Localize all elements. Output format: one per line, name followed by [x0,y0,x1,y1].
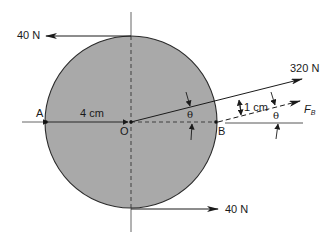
point-b-label: B [218,126,225,137]
point-a-label: A [36,108,43,119]
theta-center-label: θ [187,110,193,120]
offset-dimension-label: 1 cm [244,102,268,113]
fb-subscript: B [311,109,316,116]
theta-right-label: θ [273,111,279,121]
point-b [214,120,218,124]
offset-dim-right [271,92,275,105]
fb-force-label: FB [304,104,315,116]
offset-dim-down [240,104,241,115]
point-o-label: O [120,126,129,137]
disk-force-diagram [0,0,335,240]
fb-symbol: F [304,103,311,115]
main-force-label: 320 N [290,63,319,74]
top-force-label: 40 N [17,30,40,41]
point-a [44,120,48,124]
bottom-force-label: 40 N [225,204,248,215]
theta-right-arrow [276,124,278,139]
radius-dimension-label: 4 cm [80,108,104,119]
